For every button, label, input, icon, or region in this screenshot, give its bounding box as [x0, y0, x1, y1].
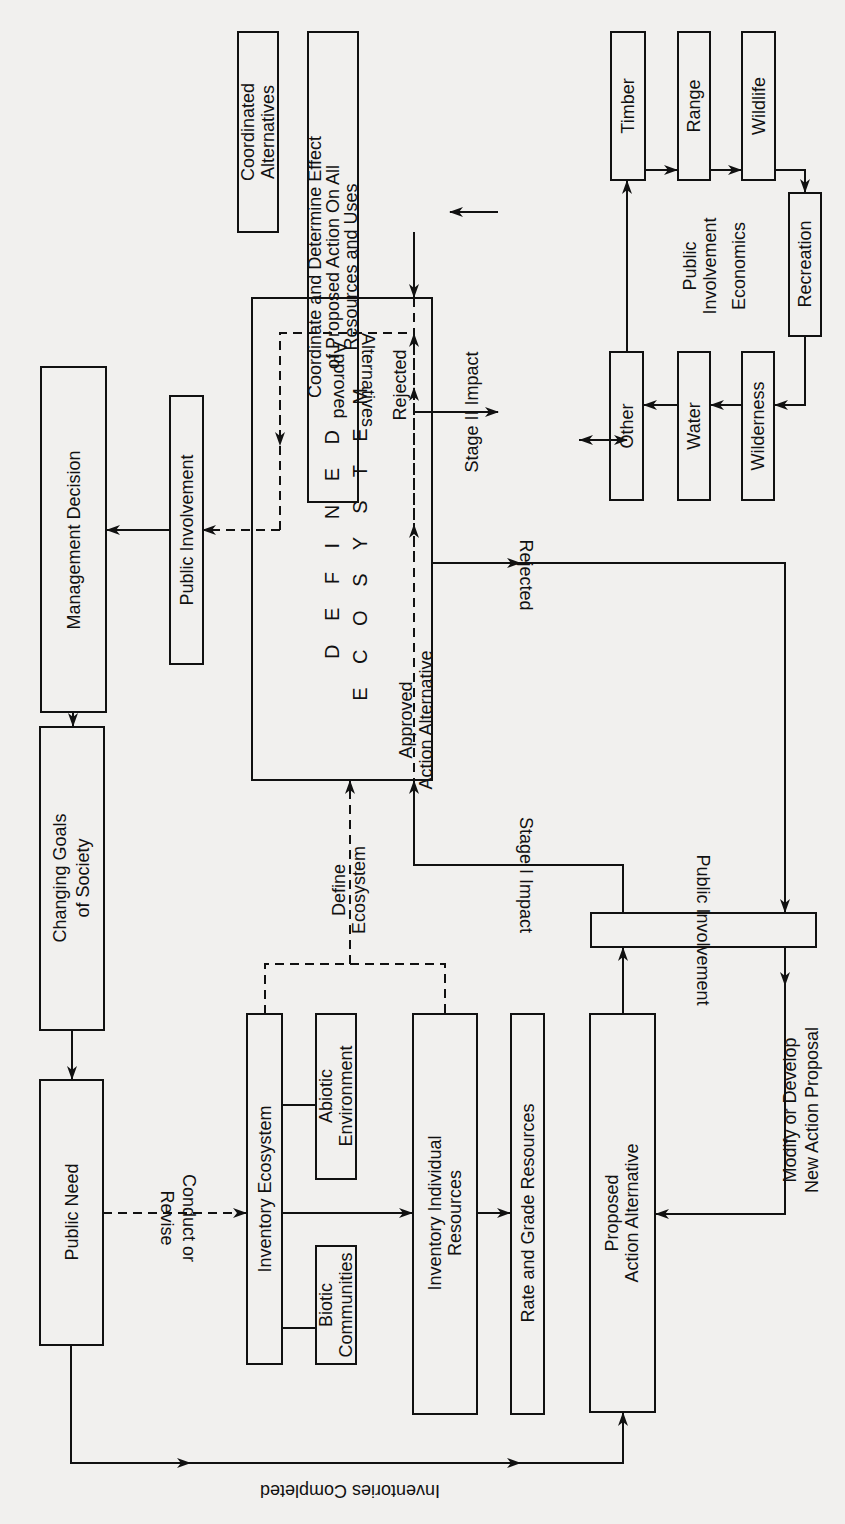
label-stage-1-impact: Stage I Impact: [516, 817, 536, 933]
label-approved-action: Approved Action Alternative: [396, 650, 436, 789]
svg-text:Changing Goals: Changing Goals: [50, 813, 70, 942]
svg-text:Coordinate and Determine Effec: Coordinate and Determine Effect: [305, 136, 325, 398]
svg-text:of Society: of Society: [73, 838, 93, 917]
svg-text:of Proposed Action On All: of Proposed Action On All: [323, 165, 343, 369]
label-public-involvement-lower: Public Involvement: [693, 854, 713, 1005]
svg-text:Coordinated: Coordinated: [238, 83, 258, 181]
label-modify-develop: Modify or Develop New Action Proposal: [780, 1027, 822, 1193]
svg-text:Economics: Economics: [729, 222, 749, 310]
svg-text:D E F I N E D: D E F I N E D: [321, 421, 343, 659]
flowchart: Management Decision Changing Goals of So…: [0, 0, 845, 1524]
svg-text:Stage II Impact: Stage II Impact: [462, 351, 482, 472]
svg-text:Inventories Completed: Inventories Completed: [260, 1481, 440, 1501]
svg-text:Modify or Develop: Modify or Develop: [780, 1037, 800, 1182]
label-water: Water: [684, 402, 704, 449]
svg-text:Range: Range: [684, 79, 704, 132]
svg-text:New Action Proposal: New Action Proposal: [802, 1027, 822, 1193]
svg-text:Wilderness: Wilderness: [748, 381, 768, 470]
svg-text:Public Involvement: Public Involvement: [177, 454, 197, 605]
svg-text:Conduct or: Conduct or: [179, 1174, 199, 1262]
label-management-decision: Management Decision: [64, 450, 84, 629]
svg-text:Action Alternative: Action Alternative: [622, 1143, 642, 1282]
label-wilderness: Wilderness: [748, 381, 768, 470]
label-timber: Timber: [618, 78, 638, 133]
svg-text:Water: Water: [684, 402, 704, 449]
svg-text:Management Decision: Management Decision: [64, 450, 84, 629]
label-defined-ecosystem: D E F I N E D E C O S Y S T E M: [321, 379, 371, 701]
svg-text:Inventory Ecosystem: Inventory Ecosystem: [255, 1105, 275, 1272]
svg-text:Resources: Resources: [445, 1170, 465, 1256]
label-other: Other: [617, 403, 637, 448]
svg-text:Stage I Impact: Stage I Impact: [516, 817, 536, 933]
svg-text:Environment: Environment: [336, 1045, 356, 1146]
svg-text:Inventory Individual: Inventory Individual: [425, 1135, 445, 1290]
label-range: Range: [684, 79, 704, 132]
svg-text:Public: Public: [680, 241, 700, 290]
svg-text:Involvement: Involvement: [700, 217, 720, 314]
svg-text:Approved: Approved: [396, 681, 416, 758]
label-rejected-right: Rejected: [516, 539, 536, 610]
label-wildlife: Wildlife: [749, 77, 769, 135]
svg-text:Rejected: Rejected: [390, 349, 410, 420]
label-public-involvement-upper: Public Involvement: [177, 454, 197, 605]
svg-text:Timber: Timber: [618, 78, 638, 133]
label-define-ecosystem: Define Ecosystem: [329, 846, 369, 934]
svg-text:Action Alternative: Action Alternative: [416, 650, 436, 789]
svg-text:Ecosystem: Ecosystem: [349, 846, 369, 934]
label-conduct-revise: Conduct or Revise: [157, 1174, 199, 1262]
label-biotic: Biotic Communities: [316, 1252, 356, 1357]
svg-text:Biotic: Biotic: [316, 1283, 336, 1327]
svg-text:Wildlife: Wildlife: [749, 77, 769, 135]
label-public-need: Public Need: [62, 1163, 82, 1260]
svg-text:Proposed: Proposed: [602, 1174, 622, 1251]
svg-text:Revise: Revise: [157, 1190, 177, 1245]
label-rejected-top: Rejected: [390, 349, 410, 420]
label-inventory-individual: Inventory Individual Resources: [425, 1135, 465, 1290]
label-changing-goals: Changing Goals of Society: [50, 813, 93, 942]
svg-text:Alternatives: Alternatives: [258, 85, 278, 179]
svg-text:Define: Define: [329, 864, 349, 916]
label-recreation: Recreation: [795, 220, 815, 307]
svg-text:Approved: Approved: [330, 341, 350, 418]
svg-text:Rejected: Rejected: [516, 539, 536, 610]
svg-text:Public Involvement: Public Involvement: [693, 854, 713, 1005]
svg-text:Rate and Grade Resources: Rate and Grade Resources: [518, 1103, 538, 1322]
label-inventory-ecosystem: Inventory Ecosystem: [255, 1105, 275, 1272]
svg-text:Recreation: Recreation: [795, 220, 815, 307]
label-economics: Economics: [729, 222, 749, 310]
svg-text:E C O S Y S T E M: E C O S Y S T E M: [349, 379, 371, 701]
svg-text:Other: Other: [617, 403, 637, 448]
label-coordinated-alternatives: Coordinated Alternatives: [238, 83, 278, 181]
label-stage-2-impact: Stage II Impact: [462, 351, 482, 472]
label-abiotic: Abiotic Environment: [316, 1045, 356, 1146]
label-rate-grade: Rate and Grade Resources: [518, 1103, 538, 1322]
label-inventories-completed: Inventories Completed: [260, 1481, 440, 1501]
svg-text:Abiotic: Abiotic: [316, 1069, 336, 1123]
svg-text:Communities: Communities: [336, 1252, 356, 1357]
svg-text:Public Need: Public Need: [62, 1163, 82, 1260]
label-center-public-involvement: Public Involvement: [680, 217, 720, 314]
svg-text:Resources and Uses: Resources and Uses: [341, 183, 361, 350]
label-proposed-action: Proposed Action Alternative: [602, 1143, 642, 1282]
svg-text:Alternatives: Alternatives: [358, 333, 378, 427]
